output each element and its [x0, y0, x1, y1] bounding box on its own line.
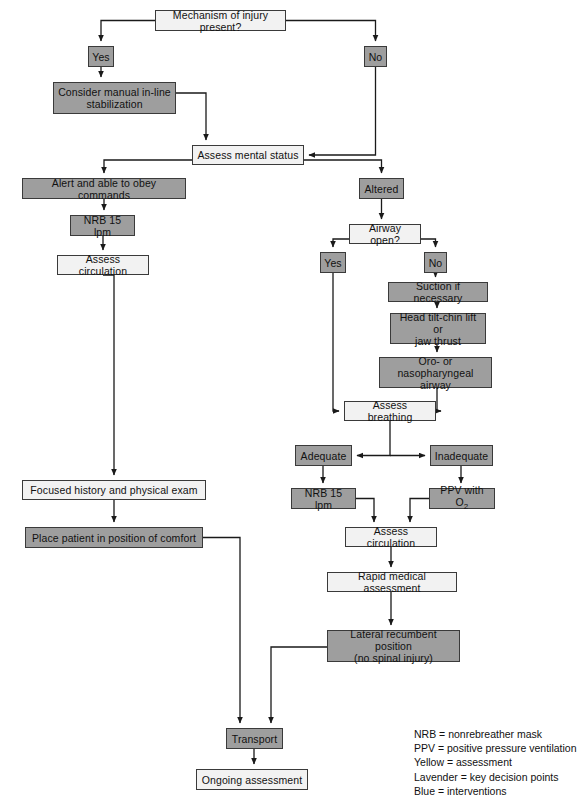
edge-breathing-to-adequate	[357, 421, 390, 456]
node-mechanism: Mechanism of injury present?	[155, 10, 286, 31]
edge-no-to-mental	[309, 67, 376, 155]
node-stabilization: Consider manual in-line stabilization	[53, 82, 176, 114]
node-nrb-alert: NRB 15 lpm	[70, 215, 135, 236]
node-no-airway: No	[424, 252, 447, 273]
edge-mechanism-to-yes	[101, 21, 155, 42]
edge-airway-to-no	[421, 239, 436, 247]
node-altered: Altered	[359, 178, 404, 199]
legend: NRB = nonrebreather maskPPV = positive p…	[414, 727, 577, 798]
node-assess-circ-left: Assess circulation	[57, 255, 149, 275]
node-airway-open: Airway open?	[349, 224, 421, 244]
node-mental-status: Assess mental status	[192, 145, 304, 165]
node-assess-breathing: Assess breathing	[344, 401, 436, 421]
edge-circulation-to-focused	[103, 275, 114, 475]
node-inadequate: Inadequate	[430, 445, 493, 466]
node-yes-airway: Yes	[320, 252, 346, 273]
node-position-comfort: Place patient in position of comfort	[25, 527, 203, 548]
node-label: PPV with O2	[434, 484, 490, 513]
edge-stabilization-to-mental	[176, 93, 206, 140]
node-ongoing: Ongoing assessment	[196, 769, 308, 790]
node-focused-history: Focused history and physical exam	[22, 480, 206, 500]
node-yes-trauma: Yes	[88, 46, 114, 67]
legend-line: Blue = interventions	[414, 784, 577, 798]
edge-mechanism-to-no	[286, 21, 376, 42]
edge-yesairway-to-breathing	[333, 273, 339, 411]
connector-layer	[0, 0, 586, 807]
edge-oronaso-to-breathing	[437, 388, 441, 411]
node-lateral-recumbent: Lateral recumbent position (no spinal in…	[327, 630, 460, 662]
node-suction: Suction if necessary	[388, 282, 488, 302]
node-transport: Transport	[226, 728, 283, 749]
edge-ppv-to-circulation	[410, 499, 429, 523]
flowchart-canvas: Mechanism of injury present?YesNoConside…	[0, 0, 586, 807]
node-oro-naso: Oro- or nasopharyngeal airway	[379, 357, 492, 388]
node-head-tilt: Head tilt-chin lift or jaw thrust	[390, 313, 486, 344]
node-adequate: Adequate	[295, 445, 352, 466]
node-ppv: PPV with O2	[429, 488, 495, 509]
edge-lateral-to-transport	[271, 647, 327, 723]
edge-mental-to-alert	[104, 160, 192, 173]
edge-mental-to-altered	[304, 160, 382, 173]
edge-nrb2-to-circulation	[356, 499, 374, 523]
node-alert: Alert and able to obey commands	[22, 178, 186, 199]
legend-line: NRB = nonrebreather mask	[414, 727, 577, 741]
node-rapid-assessment: Rapid medical assessment	[327, 572, 457, 592]
legend-line: Lavender = key decision points	[414, 770, 577, 784]
node-no-trauma: No	[364, 46, 387, 67]
node-nrb-adequate: NRB 15 lpm	[291, 488, 356, 509]
legend-line: Yellow = assessment	[414, 755, 577, 769]
edge-airway-to-yes	[333, 239, 349, 247]
node-assess-circ-right: Assess circulation	[345, 527, 437, 547]
edge-comfort-to-transport	[203, 538, 240, 724]
legend-line: PPV = positive pressure ventilation	[414, 741, 577, 755]
